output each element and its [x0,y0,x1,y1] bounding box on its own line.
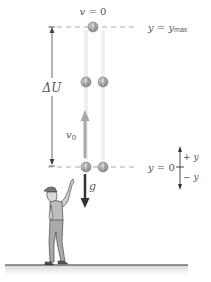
free-fall-diagram: v = 0 y = ymax ΔU v0 g y = 0 + y − y [0,0,211,282]
gravity-label: g [89,180,96,193]
positive-y-label: + y [183,152,199,162]
trajectory-traces [86,30,103,160]
initial-velocity-arrow [81,110,90,158]
ground [5,265,188,275]
zero-height-label: y = 0 [147,162,175,173]
delta-u-label: ΔU [42,81,63,95]
delta-u-arrow [40,27,64,166]
ball-middle-up [81,77,91,87]
top-velocity-label: v = 0 [80,6,107,17]
ball-bottom-return [98,162,108,172]
ball-top [88,22,98,32]
person-figure [44,179,74,265]
initial-velocity-label: v0 [66,129,76,142]
ball-middle-down [98,77,108,87]
negative-y-label: − y [183,172,199,182]
ball-bottom-launch [81,162,91,172]
max-height-label: y = ymax [147,22,188,33]
